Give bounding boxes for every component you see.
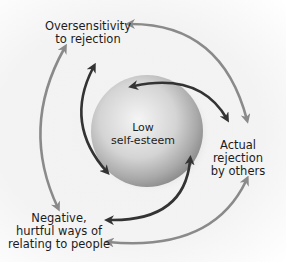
node-negative-ways: Negative, hurtful ways of relating to pe… [8, 212, 110, 251]
center-node-label: Low self-esteem [111, 121, 175, 147]
node-negative-ways-line3: relating to people [8, 238, 110, 251]
outer-arrow-left [40, 49, 64, 208]
node-oversensitivity-line2: to rejection [45, 33, 131, 46]
center-node-line2: self-esteem [111, 134, 175, 147]
node-actual-rejection: Actual rejection by others [211, 139, 265, 178]
center-node-line1: Low [111, 121, 175, 134]
diagram-canvas: Low self-esteem Oversensitivity to rejec… [0, 0, 286, 262]
node-oversensitivity: Oversensitivity to rejection [45, 20, 131, 46]
node-actual-rejection-line3: by others [211, 165, 265, 178]
